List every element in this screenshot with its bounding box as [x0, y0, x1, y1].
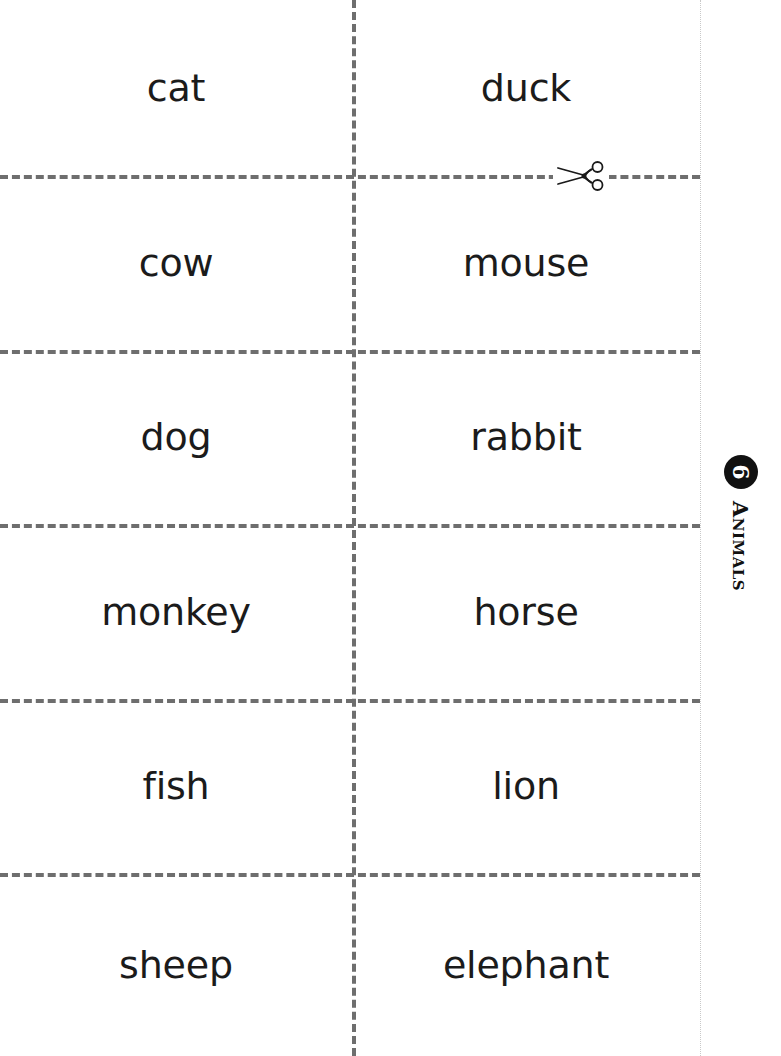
flashcard-cell[interactable]: duck — [352, 0, 700, 175]
flashcard-word: monkey — [101, 593, 251, 631]
cut-line-vertical — [352, 0, 356, 1056]
unit-side-tab-content: 6 Animals — [724, 455, 758, 591]
unit-side-tab: 6 Animals — [700, 0, 781, 1056]
unit-title-label: Animals — [728, 501, 753, 591]
flashcard-word: rabbit — [470, 418, 581, 456]
cut-line-horizontal — [0, 524, 700, 528]
flashcard-cell[interactable]: cow — [0, 175, 352, 350]
flashcard-cell[interactable]: fish — [0, 699, 352, 873]
flashcard-word: mouse — [463, 244, 590, 282]
flashcard-cell[interactable]: sheep — [0, 873, 352, 1056]
flashcard-cell[interactable]: elephant — [352, 873, 700, 1056]
scissors-icon — [555, 159, 607, 193]
cut-line-horizontal — [0, 350, 700, 354]
flashcard-word: sheep — [119, 946, 233, 984]
flashcard-word: cat — [147, 69, 205, 107]
flashcard-word: duck — [481, 69, 571, 107]
flashcard-cell[interactable]: rabbit — [352, 350, 700, 524]
flashcard-cell[interactable]: dog — [0, 350, 352, 524]
flashcard-cell[interactable]: cat — [0, 0, 352, 175]
flashcard-word: lion — [492, 767, 560, 805]
scissors-cut-marker — [553, 156, 609, 196]
flashcard-word: horse — [473, 593, 578, 631]
flashcard-cell[interactable]: monkey — [0, 524, 352, 699]
flashcard-cell[interactable]: mouse — [352, 175, 700, 350]
flashcard-word: cow — [139, 244, 214, 282]
flashcard-cell[interactable]: horse — [352, 524, 700, 699]
unit-number-badge: 6 — [724, 455, 758, 489]
flashcard-word: fish — [142, 767, 209, 805]
flashcard-worksheet-page: cat cow dog monkey fish sheep duck mouse… — [0, 0, 781, 1056]
flashcard-word: dog — [141, 418, 212, 456]
flashcard-word: elephant — [443, 946, 609, 984]
flashcard-grid: cat cow dog monkey fish sheep duck mouse… — [0, 0, 700, 1056]
cut-line-horizontal — [0, 873, 700, 877]
flashcard-cell[interactable]: lion — [352, 699, 700, 873]
cut-line-horizontal — [0, 699, 700, 703]
